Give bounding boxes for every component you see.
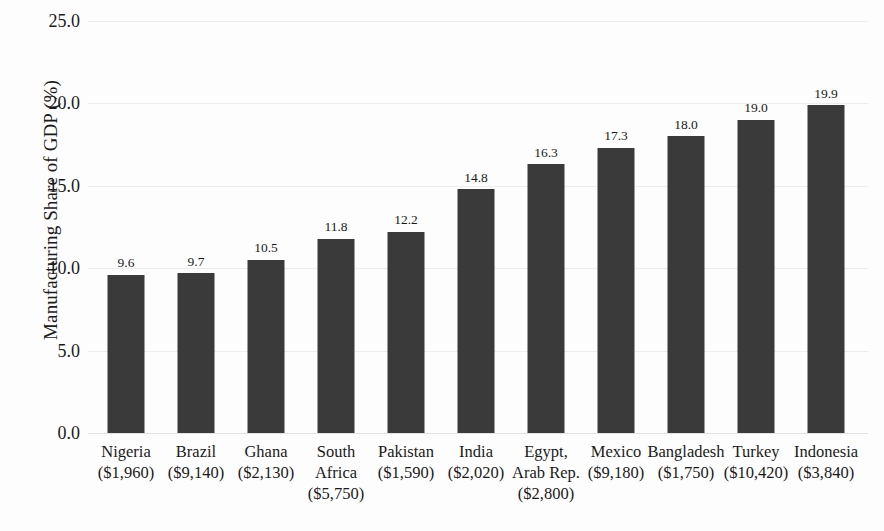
bar[interactable] [178, 273, 215, 433]
bar-group[interactable]: 19.9Indonesia($3,840) [791, 21, 861, 433]
bar[interactable] [458, 189, 495, 433]
bar[interactable] [598, 148, 635, 433]
y-axis-tick-label: 5.0 [58, 342, 81, 360]
category-label-line: ($5,750) [294, 483, 378, 504]
y-axis-tick-label: 10.0 [49, 259, 81, 277]
category-label-line: Indonesia [784, 441, 868, 462]
bar-value-label: 10.5 [254, 241, 278, 255]
chart-page: Manufacturing Share of GDP (%) 0.05.010.… [0, 0, 884, 531]
bar-value-label: 14.8 [464, 171, 488, 185]
gridline [88, 433, 868, 434]
bar[interactable] [668, 136, 705, 433]
y-axis-tick-label: 20.0 [49, 94, 81, 112]
category-label-line: ($3,840) [784, 462, 868, 483]
bar-value-label: 17.3 [604, 129, 628, 143]
bar-group[interactable]: 10.5Ghana($2,130) [231, 21, 301, 433]
bar-value-label: 9.7 [188, 255, 205, 269]
bar-group[interactable]: 9.7Brazil($9,140) [161, 21, 231, 433]
x-axis-category-label: Indonesia($3,840) [784, 441, 868, 483]
y-axis-tick-label: 15.0 [49, 177, 81, 195]
y-axis-tick-label: 25.0 [49, 12, 81, 30]
bar-group[interactable]: 11.8SouthAfrica($5,750) [301, 21, 371, 433]
bar[interactable] [248, 260, 285, 433]
bar[interactable] [108, 275, 145, 433]
bar-value-label: 18.0 [674, 118, 698, 132]
bar-value-label: 11.8 [324, 220, 347, 234]
plot-area: 0.05.010.015.020.025.0 9.6Nigeria($1,960… [88, 21, 868, 433]
bar-group[interactable]: 19.0Turkey($10,420) [721, 21, 791, 433]
bar-group[interactable]: 16.3Egypt,Arab Rep.($2,800) [511, 21, 581, 433]
bar-group[interactable]: 12.2Pakistan($1,590) [371, 21, 441, 433]
bar-value-label: 19.0 [744, 101, 768, 115]
bar-value-label: 16.3 [534, 146, 558, 160]
bar[interactable] [318, 239, 355, 433]
bar-value-label: 19.9 [814, 87, 838, 101]
bar[interactable] [738, 120, 775, 433]
bar[interactable] [808, 105, 845, 433]
bar-group[interactable]: 18.0Bangladesh($1,750) [651, 21, 721, 433]
bar-group[interactable]: 17.3Mexico($9,180) [581, 21, 651, 433]
bar-group[interactable]: 14.8India($2,020) [441, 21, 511, 433]
bar-group[interactable]: 9.6Nigeria($1,960) [91, 21, 161, 433]
bar-value-label: 9.6 [118, 256, 135, 270]
bar[interactable] [528, 164, 565, 433]
bar-value-label: 12.2 [394, 213, 418, 227]
y-axis-tick-label: 0.0 [58, 424, 81, 442]
category-label-line: ($2,800) [504, 483, 588, 504]
bar[interactable] [388, 232, 425, 433]
